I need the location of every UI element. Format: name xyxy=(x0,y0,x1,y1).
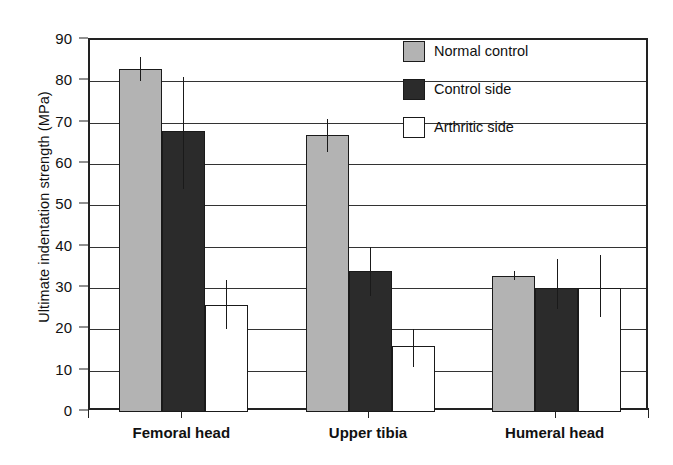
y-axis-tick-mark xyxy=(79,203,88,204)
legend-label: Control side xyxy=(434,81,511,97)
y-axis-tick-mark xyxy=(79,327,88,328)
error-bar xyxy=(370,247,371,297)
legend-swatch-icon xyxy=(403,41,425,62)
chart-legend: Normal controlControl sideArthritic side xyxy=(403,36,615,148)
legend-item: Control side xyxy=(403,74,615,104)
y-axis-tick-label: 10 xyxy=(28,360,72,377)
x-axis-tick-mark xyxy=(88,408,89,418)
legend-swatch-icon xyxy=(403,79,425,100)
x-axis-tick-mark xyxy=(648,408,649,418)
x-axis-category-label: Upper tibia xyxy=(329,424,407,441)
error-bar xyxy=(600,255,601,317)
y-axis-tick-label: 70 xyxy=(28,112,72,129)
legend-item: Arthritic side xyxy=(403,112,615,142)
bar xyxy=(306,135,349,412)
y-axis-tick-label: 30 xyxy=(28,278,72,295)
error-bar xyxy=(413,329,414,366)
error-bar xyxy=(327,119,328,152)
x-axis-label-layer: Femoral headUpper tibiaHumeral head xyxy=(88,424,648,450)
y-axis-tick-mark xyxy=(79,410,88,411)
y-axis-tick-label: 80 xyxy=(28,71,72,88)
y-axis-tick-label: 20 xyxy=(28,319,72,336)
error-bar xyxy=(140,57,141,82)
error-bar xyxy=(226,280,227,330)
y-axis-tick-mark xyxy=(79,38,88,39)
y-axis-tick-mark xyxy=(79,79,88,80)
y-axis-tick-label: 90 xyxy=(28,30,72,47)
y-axis-tick-mark xyxy=(79,162,88,163)
x-axis-category-label: Humeral head xyxy=(505,424,604,441)
y-axis-tick-label: 60 xyxy=(28,154,72,171)
y-axis-tick-label: 0 xyxy=(28,402,72,419)
y-axis-tick-label: 50 xyxy=(28,195,72,212)
error-bar xyxy=(514,271,515,279)
legend-item: Normal control xyxy=(403,36,615,66)
legend-label: Normal control xyxy=(434,43,528,59)
y-axis-tick-mark xyxy=(79,286,88,287)
y-axis-tick-mark xyxy=(79,120,88,121)
x-axis-category-label: Femoral head xyxy=(133,424,231,441)
bar xyxy=(119,69,162,412)
bar xyxy=(492,276,535,412)
legend-swatch-icon xyxy=(403,117,425,138)
bar-chart-figure: Ultimate indentation strength (MPa) 9080… xyxy=(0,0,673,465)
y-axis-tick-mark xyxy=(79,244,88,245)
y-axis-tick-label: 40 xyxy=(28,236,72,253)
y-axis-tick-mark xyxy=(79,368,88,369)
error-bar xyxy=(557,259,558,309)
error-bar xyxy=(183,77,184,189)
legend-label: Arthritic side xyxy=(434,119,514,135)
